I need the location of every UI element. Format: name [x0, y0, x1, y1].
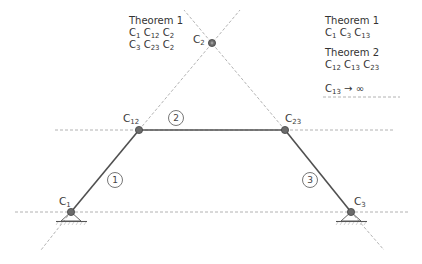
theorem-1-title-left: Theorem 1 [129, 15, 183, 27]
theorem-1-title-right: Theorem 1 [325, 15, 379, 27]
link-1 [71, 130, 139, 212]
link-3 [285, 130, 351, 212]
c13-infinity-note: C13 → ∞ [325, 83, 364, 95]
label-c1: C1 [59, 195, 71, 207]
theorem-1-line-right: C1 C3 C13 [325, 27, 379, 39]
joint-c23 [281, 126, 288, 133]
label-c2: C2 [193, 33, 205, 45]
link-number-3: 3 [302, 172, 318, 188]
joint-c3 [347, 208, 354, 215]
label-c12: C12 [123, 112, 139, 124]
links [71, 130, 351, 212]
theorem-1-line-1: C1 C12 C2 [129, 27, 183, 39]
theorem-1-line-2: C3 C23 C2 [129, 39, 183, 51]
link-number-1: 1 [107, 172, 123, 188]
c3-extension-down [351, 212, 384, 250]
joint-c12 [135, 126, 142, 133]
joint-c1 [67, 208, 74, 215]
theorem-note-right: Theorem 1 C1 C3 C13 Theorem 2 C12 C13 C2… [325, 15, 379, 71]
label-c23: C23 [285, 112, 301, 124]
theorem-2-title: Theorem 2 [325, 47, 379, 59]
label-c3: C3 [354, 195, 366, 207]
link-number-2: 2 [168, 110, 184, 126]
c23-c2-extension [184, 10, 285, 130]
theorem-2-line: C12 C13 C23 [325, 59, 379, 71]
theorem-note-left: Theorem 1 C1 C12 C2 C3 C23 C2 [129, 15, 183, 51]
c1-extension-down [41, 212, 71, 250]
joints [67, 39, 354, 215]
